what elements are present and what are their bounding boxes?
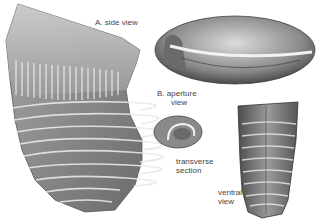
transverse-section-specimen: [154, 116, 202, 148]
label-ventral-view-line1: ventral: [218, 188, 242, 197]
label-ventral-view-line2: view: [218, 197, 234, 206]
label-side-view: A. side view: [95, 18, 138, 27]
side-view-specimen: [6, 4, 163, 212]
aperture-view-specimen: [155, 16, 315, 84]
label-transverse-section-line1: transverse: [176, 157, 213, 166]
label-transverse-section-line2: section: [176, 166, 201, 175]
label-aperture-view-line1: B. aperture: [157, 89, 197, 98]
specimen-illustrations: [0, 0, 318, 224]
ventral-view-specimen: [238, 102, 298, 218]
label-aperture-view-line2: view: [171, 98, 187, 107]
